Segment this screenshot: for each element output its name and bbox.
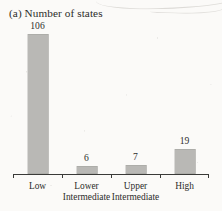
x-axis-tick-4 bbox=[208, 174, 209, 178]
bar-high bbox=[174, 149, 195, 174]
scan-curvature-artifact bbox=[96, 0, 222, 11]
x-axis-label-upper-intermediate-line-1: Upper bbox=[111, 181, 160, 192]
bar-series: 106 6 7 19 bbox=[13, 18, 209, 174]
scan-curvature-artifact-secondary bbox=[150, 2, 222, 16]
bar-upper-intermediate bbox=[125, 165, 146, 174]
x-axis-label-low: Low bbox=[13, 181, 62, 202]
x-axis-tick-0 bbox=[13, 174, 14, 178]
bar-slot-lower-intermediate: 6 bbox=[62, 18, 111, 174]
bar-value-high: 19 bbox=[180, 136, 190, 146]
x-axis-tick-3 bbox=[160, 174, 161, 178]
bar-value-upper-intermediate: 7 bbox=[133, 152, 138, 162]
bar-slot-upper-intermediate: 7 bbox=[111, 18, 160, 174]
bar-slot-low: 106 bbox=[13, 18, 62, 174]
bar-value-low: 106 bbox=[30, 21, 44, 31]
x-axis-label-lower-intermediate-line-2: Intermediate bbox=[62, 192, 111, 203]
x-axis-label-high: High bbox=[160, 181, 209, 202]
x-axis-label-upper-intermediate: Upper Intermediate bbox=[111, 181, 160, 202]
bar-value-lower-intermediate: 6 bbox=[84, 153, 89, 163]
x-axis-tick-1 bbox=[62, 174, 63, 178]
plot-area: 106 6 7 19 bbox=[13, 18, 209, 174]
x-axis-label-low-line-1: Low bbox=[13, 181, 62, 192]
x-axis-tick-2 bbox=[111, 174, 112, 178]
x-axis-label-lower-intermediate-line-1: Lower bbox=[62, 181, 111, 192]
bar-slot-high: 19 bbox=[160, 18, 209, 174]
x-axis-label-upper-intermediate-line-2: Intermediate bbox=[111, 192, 160, 203]
x-axis-label-lower-intermediate: Lower Intermediate bbox=[62, 181, 111, 202]
bar-lower-intermediate bbox=[76, 166, 97, 174]
x-axis-category-labels: Low Lower Intermediate Upper Intermediat… bbox=[13, 181, 209, 202]
bar-low bbox=[27, 34, 48, 174]
x-axis-label-high-line-1: High bbox=[160, 181, 209, 192]
bar-chart-figure: (a) Number of states 106 6 7 19 bbox=[0, 0, 222, 211]
